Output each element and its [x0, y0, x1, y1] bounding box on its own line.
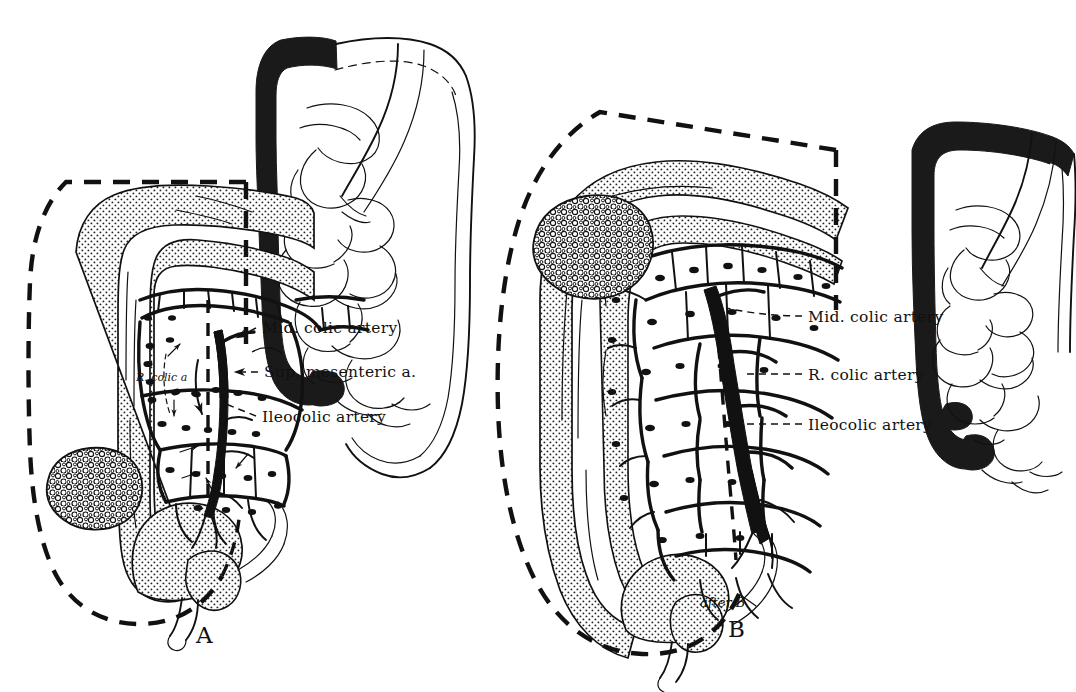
- leader-mid-colic-b: [726, 308, 802, 316]
- figure-root: Mid. colic artery Sup. mesenteric a. Ile…: [0, 0, 1076, 692]
- panel-b-drawing: [498, 112, 848, 692]
- label-ileocolic-artery-a: Ileocolic artery: [262, 408, 386, 426]
- panel-letter-b: B: [728, 616, 746, 642]
- panel-letter-a: A: [195, 622, 214, 648]
- label-r-colic-artery-a: R. colic a: [135, 371, 187, 384]
- tumor-a: [47, 448, 142, 530]
- tumor-b: [533, 195, 653, 299]
- leader-ileocolic-a: [226, 404, 256, 416]
- annotation-after-credit: after B: [700, 595, 745, 610]
- label-r-colic-artery-b: R. colic artery: [808, 366, 924, 384]
- label-mid-colic-artery-a: Mid. colic artery: [262, 319, 397, 337]
- anatomical-figure: Mid. colic artery Sup. mesenteric a. Ile…: [0, 0, 1076, 692]
- label-mid-colic-artery-b: Mid. colic artery: [808, 308, 943, 326]
- label-sup-mesenteric-artery-a: Sup. mesenteric a.: [264, 363, 416, 381]
- panel-b-labels: Mid. colic artery R. colic artery Ileoco…: [700, 308, 943, 642]
- label-ileocolic-artery-b: Ileocolic artery: [808, 416, 932, 434]
